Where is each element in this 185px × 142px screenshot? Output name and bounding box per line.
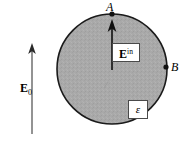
internal-field-superscript: in	[127, 47, 133, 56]
point-marker-B	[163, 64, 168, 69]
external-field-symbol: E	[20, 81, 28, 95]
internal-field-symbol: E	[119, 47, 127, 61]
point-label-a: A	[106, 1, 113, 13]
figure-canvas	[0, 0, 185, 142]
physics-figure-dielectric-sphere: A B E0 Ein ε	[0, 0, 185, 142]
external-field-subscript: 0	[28, 88, 32, 97]
internal-field-label-box: Ein	[112, 43, 140, 62]
permittivity-symbol: ε	[136, 104, 140, 115]
point-label-b: B	[171, 61, 178, 73]
permittivity-label-box: ε	[128, 100, 148, 119]
external-field-label: E0	[20, 82, 32, 97]
